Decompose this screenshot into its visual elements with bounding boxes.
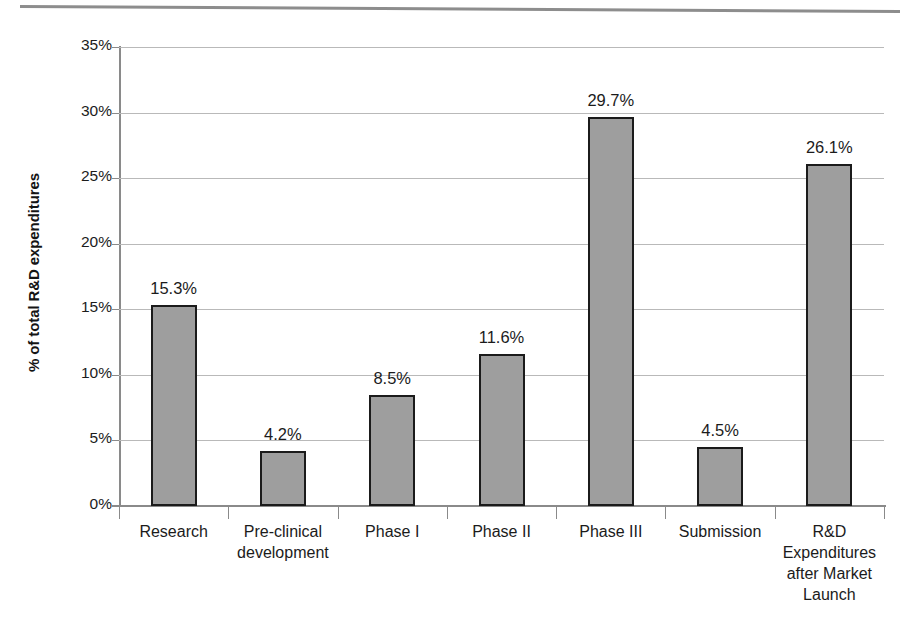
x-axis-category-label: Phase I — [334, 521, 451, 542]
bar-chart-figure: % of total R&D expenditures 0%5%10%15%20… — [0, 0, 916, 635]
x-axis-category-label-line: development — [224, 542, 341, 563]
gridline — [119, 47, 884, 48]
x-axis-category-label: Research — [115, 521, 232, 542]
y-axis-tick-label: 0% — [40, 495, 112, 513]
x-axis-category-label-line: R&D — [771, 521, 888, 542]
y-axis-tick-label: 15% — [40, 298, 112, 316]
x-axis-tick-mark — [556, 506, 557, 519]
x-axis-category-label-line: Submission — [661, 521, 778, 542]
x-axis-tick-mark — [338, 506, 339, 519]
x-axis-category-label: Phase III — [552, 521, 669, 542]
bar-data-label: 29.7% — [551, 91, 671, 110]
bar — [151, 305, 197, 506]
bar — [479, 354, 525, 506]
x-axis-tick-mark — [228, 506, 229, 519]
bar-data-label: 8.5% — [332, 369, 452, 388]
x-axis-category-label: Pre-clinicaldevelopment — [224, 521, 341, 563]
y-axis-title: % of total R&D expenditures — [25, 118, 42, 428]
bar — [369, 395, 415, 506]
x-axis-category-label: R&DExpendituresafter MarketLaunch — [771, 521, 888, 605]
x-axis-category-label-line: Pre-clinical — [224, 521, 341, 542]
gridline — [119, 309, 884, 310]
gridline — [119, 244, 884, 245]
y-axis-tick-mark — [112, 178, 119, 179]
x-axis-category-label-line: Phase III — [552, 521, 669, 542]
bar-data-label: 26.1% — [769, 138, 889, 157]
x-axis-category-label: Phase II — [443, 521, 560, 542]
x-axis-tick-mark — [119, 506, 120, 519]
x-axis-category-label-line: Expenditures — [771, 542, 888, 563]
y-axis-tick-label: 25% — [40, 167, 112, 185]
y-axis-tick-mark — [112, 440, 119, 441]
y-axis-tick-label: 20% — [40, 233, 112, 251]
x-axis-category-label-line: after Market — [771, 563, 888, 584]
bar — [588, 117, 634, 506]
x-axis-category-label-line: Phase I — [334, 521, 451, 542]
y-axis-tick-mark — [112, 244, 119, 245]
gridline — [119, 178, 884, 179]
x-axis-tick-mark — [447, 506, 448, 519]
y-axis-tick-label: 10% — [40, 364, 112, 382]
x-axis-category-label-line: Phase II — [443, 521, 560, 542]
bar — [806, 164, 852, 506]
x-axis-tick-mark — [775, 506, 776, 519]
y-axis-tick-label: 30% — [40, 102, 112, 120]
x-axis-tick-mark — [665, 506, 666, 519]
bar — [697, 447, 743, 506]
y-axis-tick-mark — [112, 47, 119, 48]
y-axis-tick-mark — [112, 375, 119, 376]
x-axis-category-label: Submission — [661, 521, 778, 542]
x-axis-tick-mark — [884, 506, 885, 519]
bar-data-label: 4.2% — [223, 425, 343, 444]
y-axis-tick-mark — [112, 113, 119, 114]
x-axis-category-label-line: Launch — [771, 584, 888, 605]
bar-data-label: 11.6% — [442, 328, 562, 347]
y-axis-tick-label: 35% — [40, 36, 112, 54]
y-axis-tick-label: 5% — [40, 429, 112, 447]
y-axis-tick-mark — [112, 309, 119, 310]
x-axis-category-label-line: Research — [115, 521, 232, 542]
bar-data-label: 15.3% — [114, 279, 234, 298]
gridline — [119, 113, 884, 114]
bar-data-label: 4.5% — [660, 421, 780, 440]
bar — [260, 451, 306, 506]
top-divider-rule — [20, 5, 900, 13]
